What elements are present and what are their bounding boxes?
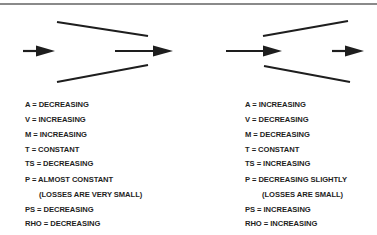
property-velocity: V = INCREASING xyxy=(25,115,86,125)
diverging-duct xyxy=(226,21,364,82)
property-static-pressure: PS = DECREASING xyxy=(25,205,94,215)
property-density: RHO = INCREASING xyxy=(245,219,317,229)
property-static-temperature: TS = DECREASING xyxy=(25,159,93,169)
property-mach: M = DECREASING xyxy=(245,130,310,140)
duct-wall-upper xyxy=(263,21,348,36)
duct-diagram xyxy=(0,0,377,95)
property-loss-note: (LOSSES ARE SMALL) xyxy=(262,190,343,200)
property-static-temperature: TS = INCREASING xyxy=(245,159,310,169)
inflow-arrow-icon xyxy=(226,46,282,57)
property-static-pressure: PS = INCREASING xyxy=(245,205,311,215)
property-density: RHO = DECREASING xyxy=(25,219,100,229)
property-total-temperature: T = CONSTANT xyxy=(25,145,79,155)
property-loss-note: (LOSSES ARE VERY SMALL) xyxy=(39,190,142,200)
property-total-pressure: P = DECREASING SLIGHTLY xyxy=(245,175,347,185)
property-velocity: V = DECREASING xyxy=(245,115,309,125)
property-total-pressure: P = ALMOST CONSTANT xyxy=(25,175,113,185)
inflow-arrow-icon xyxy=(23,46,55,57)
outflow-arrow-icon xyxy=(332,46,364,57)
duct-wall-lower xyxy=(264,66,350,82)
property-area: A = INCREASING xyxy=(245,100,306,110)
duct-wall-lower xyxy=(57,65,148,82)
property-area: A = DECREASING xyxy=(25,100,89,110)
outflow-arrow-icon xyxy=(115,46,173,57)
duct-wall-upper xyxy=(57,22,148,36)
converging-duct xyxy=(23,22,173,82)
property-total-temperature: T = CONSTANT xyxy=(245,145,299,155)
property-mach: M = INCREASING xyxy=(25,130,87,140)
